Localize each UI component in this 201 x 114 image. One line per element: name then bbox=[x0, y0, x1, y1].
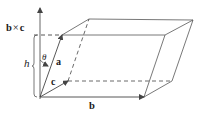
height-brace bbox=[32, 35, 37, 97]
angle-label: θ bbox=[42, 52, 47, 62]
top-left-edge bbox=[62, 19, 89, 35]
height-label: h bbox=[24, 57, 30, 69]
front-right-edge bbox=[144, 35, 165, 97]
back-left-edge-hidden bbox=[68, 19, 89, 81]
vector-a-label: a bbox=[56, 56, 61, 67]
vector-c-label: c bbox=[51, 76, 56, 87]
cross-product-label: b×c bbox=[6, 22, 25, 33]
vector-b-label: b bbox=[89, 100, 95, 111]
top-back-edge bbox=[89, 19, 193, 20]
parallelepiped-diagram: b×c h θ a c b bbox=[0, 0, 201, 114]
